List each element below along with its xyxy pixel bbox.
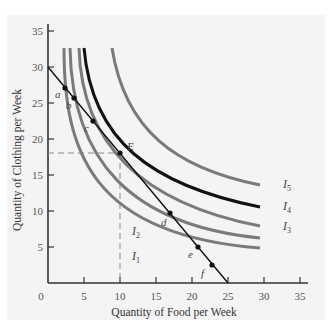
x-tick-35: 35: [295, 290, 307, 302]
label-f: f: [201, 267, 206, 279]
y-axis-label: Quantity of Clothing per Week: [11, 89, 24, 231]
x-ticks: [84, 277, 300, 283]
indifference-curve-i2: [70, 48, 260, 238]
point-d: [167, 210, 172, 215]
x-tick-20: 20: [187, 290, 199, 302]
indifference-chart: 5 10 15 20 25 30 35 0 5 10 15 20 25 30 3…: [0, 0, 332, 331]
point-E: [117, 150, 122, 155]
y-tick-35: 35: [32, 25, 44, 37]
x-tick-30: 30: [259, 290, 271, 302]
indifference-curve-i5: [112, 48, 260, 185]
y-ticks: [48, 31, 54, 247]
point-e: [195, 244, 200, 249]
x-tick-0: 0: [38, 290, 44, 302]
label-i2: I2: [131, 224, 140, 240]
x-tick-25: 25: [223, 290, 235, 302]
x-axis-label: Quantity of Food per Week: [111, 306, 237, 319]
y-tick-20: 20: [32, 133, 44, 145]
label-i4: I4: [282, 199, 291, 215]
label-i5: I5: [282, 177, 291, 193]
x-tick-15: 15: [151, 290, 163, 302]
label-i3: I3: [282, 219, 291, 235]
x-tick-10: 10: [115, 290, 127, 302]
point-f: [209, 262, 214, 267]
label-e: e: [188, 248, 193, 260]
point-c: [90, 118, 95, 123]
label-i1: I1: [131, 249, 140, 265]
point-a: [62, 85, 67, 90]
label-E: E: [126, 140, 134, 152]
point-b: [71, 95, 76, 100]
label-d: d: [161, 216, 167, 228]
y-tick-30: 30: [32, 61, 44, 73]
x-tick-5: 5: [81, 290, 87, 302]
y-tick-15: 15: [32, 169, 44, 181]
y-tick-25: 25: [32, 97, 44, 109]
indifference-curve-i4: [84, 48, 260, 207]
label-c: c: [84, 122, 89, 134]
y-tick-10: 10: [32, 205, 44, 217]
label-b: b: [66, 99, 72, 111]
label-a: a: [55, 88, 61, 100]
y-tick-5: 5: [38, 241, 44, 253]
